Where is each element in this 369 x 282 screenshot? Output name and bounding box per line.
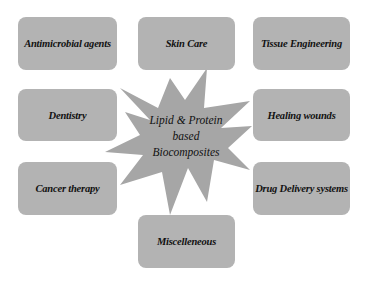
node-tissue-engineering: Tissue Engineering — [253, 17, 350, 70]
node-drug-delivery-systems: Drug Delivery systems — [253, 162, 350, 215]
node-label: Healing wounds — [267, 110, 335, 121]
node-label: Miscelleneous — [157, 236, 216, 247]
node-label: Antimicrobial agents — [24, 38, 111, 49]
node-antimicrobial-agents: Antimicrobial agents — [18, 17, 117, 70]
node-label: Tissue Engineering — [261, 38, 342, 49]
node-label: Drug Delivery systems — [255, 183, 348, 194]
node-label: Dentistry — [49, 110, 87, 121]
node-dentistry: Dentistry — [18, 89, 117, 141]
node-label: Skin Care — [166, 38, 208, 49]
center-line-1: Lipid & Protein — [140, 112, 232, 128]
center-title: Lipid & Protein based Biocomposites — [140, 112, 232, 160]
node-healing-wounds: Healing wounds — [253, 89, 350, 141]
node-skin-care: Skin Care — [138, 17, 235, 70]
center-line-2: based — [140, 128, 232, 144]
node-miscelleneous: Miscelleneous — [138, 215, 235, 268]
node-cancer-therapy: Cancer therapy — [18, 162, 117, 215]
node-label: Cancer therapy — [36, 183, 100, 194]
center-line-3: Biocomposites — [140, 144, 232, 160]
